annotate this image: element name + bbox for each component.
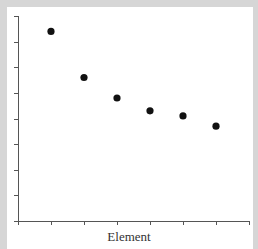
data-point [179,112,186,119]
data-point [80,74,87,81]
x-axis-label: Element [0,229,258,245]
scatter-plot [0,0,258,249]
data-point [113,94,120,101]
data-points [47,28,219,130]
data-point [212,123,219,130]
axes [14,16,250,225]
data-point [47,28,54,35]
data-point [146,107,153,114]
